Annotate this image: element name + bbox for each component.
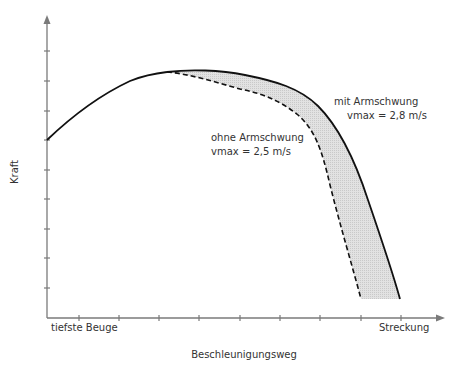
force-distance-chart: Kraft Beschleunigungsweg tiefste Beuge S… xyxy=(0,0,457,368)
x-axis-label: Beschleunigungsweg xyxy=(191,349,297,360)
x-tick-label-end: Streckung xyxy=(379,322,429,333)
y-axis-label: Kraft xyxy=(9,160,20,184)
annotation-mit-armschwung-vmax: vmax = 2,8 m/s xyxy=(347,110,427,121)
x-axis-arrow-icon xyxy=(436,315,445,322)
x-axis xyxy=(47,315,445,322)
annotation-mit-armschwung: mit Armschwung xyxy=(334,96,418,107)
y-axis xyxy=(44,15,51,318)
annotation-ohne-armschwung-vmax: vmax = 2,5 m/s xyxy=(211,146,291,157)
common-rising-curve xyxy=(47,72,167,140)
x-tick-label-start: tiefste Beuge xyxy=(51,322,118,333)
y-axis-arrow-icon xyxy=(44,15,51,24)
annotation-ohne-armschwung: ohne Armschwung xyxy=(211,132,304,143)
